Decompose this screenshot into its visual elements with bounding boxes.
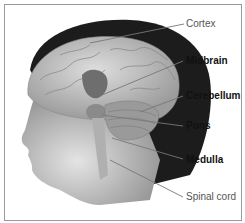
label-medulla: Medulla [186,154,223,166]
label-pons: Pons [186,120,210,132]
label-cerebellum: Cerebellum [186,90,240,102]
label-midbrain: Midbrain [186,55,228,67]
brain-illustration [0,0,245,223]
label-spinal-cord: Spinal cord [186,191,236,203]
label-cortex: Cortex [186,18,215,30]
pons-shape [86,104,106,120]
